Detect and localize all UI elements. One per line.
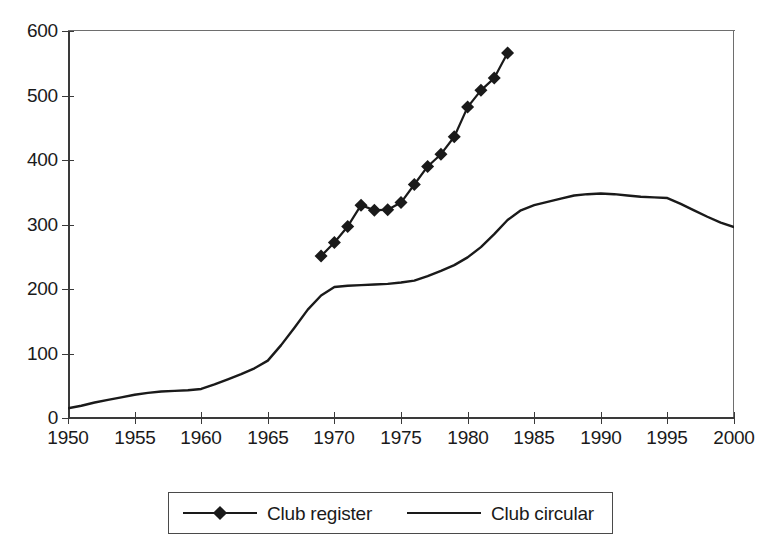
y-axis-tick-label: 400 (27, 150, 58, 169)
x-axis-tick-label: 1950 (36, 428, 100, 448)
series-club-circular (68, 194, 734, 409)
y-axis-tick-label: 0 (48, 408, 58, 427)
series-layer (68, 31, 734, 418)
y-axis-tick-label: 300 (27, 215, 58, 234)
legend-label: Club circular (491, 504, 594, 523)
x-axis-tick-label: 1955 (103, 428, 167, 448)
y-axis-tick-label: 100 (27, 344, 58, 363)
data-point-marker (381, 203, 394, 216)
legend-label: Club register (267, 504, 372, 523)
x-axis-tick (734, 412, 735, 424)
legend-swatch-line-diamond (183, 506, 257, 520)
x-axis-tick-label: 1985 (502, 428, 566, 448)
data-point-marker (501, 46, 514, 59)
x-axis-tick-label: 1965 (236, 428, 300, 448)
x-axis-tick-label: 1970 (302, 428, 366, 448)
data-point-marker (355, 199, 368, 212)
legend-item-club-register[interactable]: Club register (183, 493, 372, 533)
y-axis-tick-label: 200 (27, 279, 58, 298)
x-axis-tick-label: 1960 (169, 428, 233, 448)
series-line (68, 194, 734, 409)
x-axis-tick-label: 1995 (635, 428, 699, 448)
x-axis-tick-label: 1975 (369, 428, 433, 448)
plot-area (68, 31, 734, 418)
line-chart: 0100200300400500600 19501955196019651970… (0, 0, 780, 555)
x-axis-tick-label: 1980 (436, 428, 500, 448)
legend: Club register Club circular (168, 492, 613, 534)
y-axis-tick-label: 500 (27, 86, 58, 105)
legend-swatch-line (407, 506, 481, 520)
x-axis-tick-label: 2000 (702, 428, 766, 448)
data-point-marker (368, 204, 381, 217)
y-axis-tick-label: 600 (27, 21, 58, 40)
legend-item-club-circular[interactable]: Club circular (407, 493, 594, 533)
x-axis-tick-label: 1990 (569, 428, 633, 448)
series-club-register (315, 46, 514, 262)
